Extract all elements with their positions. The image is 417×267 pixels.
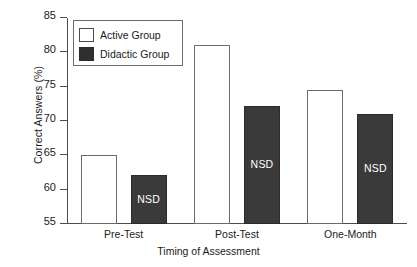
y-axis-title: Correct Answers (%): [32, 20, 44, 210]
y-axis-tick: 55: [60, 223, 67, 224]
legend-label-didactic-group: Didactic Group: [100, 48, 169, 60]
legend-swatch-active-group-icon: [79, 28, 94, 42]
y-axis-line: [67, 18, 68, 224]
bar-annotation-nsd: NSD: [358, 162, 392, 174]
x-axis-line: [67, 223, 407, 224]
y-axis-tick-label: 80: [44, 43, 56, 55]
legend: Active Group Didactic Group: [73, 20, 183, 66]
y-axis-tick-label: 85: [44, 9, 56, 21]
y-axis-tick-label: 55: [44, 215, 56, 227]
bar-active-group: [81, 155, 117, 224]
y-axis-tick-label: 70: [44, 112, 56, 124]
x-axis-title: Timing of Assessment: [0, 245, 417, 257]
y-axis-tick-label: 65: [44, 146, 56, 158]
y-axis-tick-label: 60: [44, 181, 56, 193]
legend-label-active-group: Active Group: [100, 29, 161, 41]
bar-chart: Correct Answers (%) 55606570758085 NSDNS…: [0, 0, 417, 267]
bar-didactic-group: NSD: [244, 106, 280, 224]
y-axis-tick: 70: [60, 120, 67, 121]
x-axis-category-label: Pre-Test: [64, 228, 184, 240]
y-axis-tick: 85: [60, 17, 67, 18]
legend-swatch-didactic-group-icon: [79, 47, 94, 61]
y-axis-tick-label: 75: [44, 78, 56, 90]
legend-item-didactic-group: Didactic Group: [79, 45, 177, 63]
y-axis-tick: 65: [60, 154, 67, 155]
bar-annotation-nsd: NSD: [245, 158, 279, 170]
legend-item-active-group: Active Group: [79, 26, 177, 44]
y-axis-tick: 60: [60, 189, 67, 190]
y-axis-tick: 75: [60, 86, 67, 87]
y-axis-tick: 80: [60, 51, 67, 52]
bar-active-group: [307, 90, 343, 224]
bar-didactic-group: NSD: [131, 175, 167, 224]
bar-active-group: [194, 45, 230, 224]
x-axis-category-label: One-Month: [290, 228, 410, 240]
bar-annotation-nsd: NSD: [132, 193, 166, 205]
x-axis-category-label: Post-Test: [177, 228, 297, 240]
bar-didactic-group: NSD: [357, 114, 393, 224]
